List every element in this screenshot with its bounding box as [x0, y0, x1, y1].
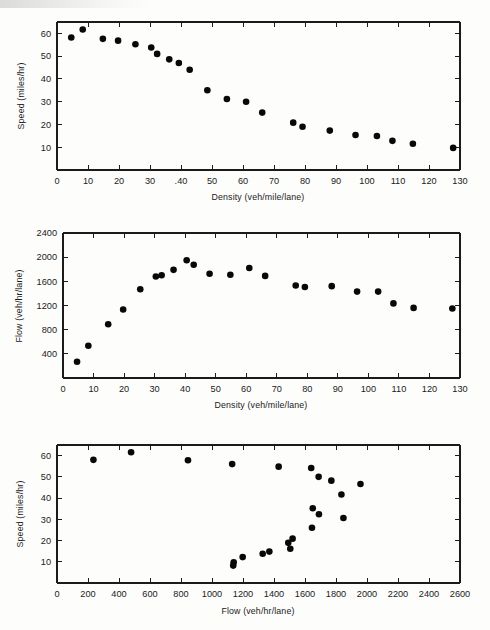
- y-tick-label: 50: [41, 472, 51, 482]
- y-axis-tick-labels-2: 4008001200160020002400: [37, 228, 57, 359]
- x-tick-label: 10: [88, 384, 98, 394]
- y-axis-ticks-1: [57, 33, 460, 147]
- scatter-point: [308, 465, 315, 472]
- y-axis-title-3: Speed (miles/hr): [15, 481, 25, 548]
- x-tick-label: 30: [145, 176, 155, 186]
- scatter-point: [259, 109, 266, 116]
- x-tick-label: 400: [111, 589, 126, 599]
- scatter-point: [285, 540, 292, 547]
- scatter-point: [309, 505, 316, 512]
- y-tick-label: 800: [42, 325, 57, 335]
- x-tick-label: 30: [149, 384, 159, 394]
- scatter-point: [128, 449, 135, 456]
- scatter-point: [410, 305, 417, 312]
- y-tick-label: 40: [41, 493, 51, 503]
- y-tick-label: 60: [41, 451, 51, 461]
- scatter-point: [204, 87, 211, 94]
- scatter-point: [287, 546, 294, 553]
- scatter-point: [120, 306, 127, 313]
- scatter-point: [115, 37, 122, 44]
- scatter-point: [227, 271, 234, 278]
- x-tick-label: 80: [302, 384, 312, 394]
- scatter-point: [229, 461, 236, 468]
- scatter-point: [262, 273, 269, 280]
- x-axis-tick-labels-2: 0102030405060708090100110120130: [60, 384, 467, 394]
- scatter-point: [79, 26, 86, 33]
- y-tick-label: 20: [41, 120, 51, 130]
- scatter-point: [85, 342, 92, 349]
- x-tick-label: 2600: [450, 589, 470, 599]
- x-tick-label: 50: [207, 176, 217, 186]
- x-axis-ticks-3: [88, 445, 460, 583]
- x-tick-label: 800: [173, 589, 188, 599]
- y-tick-label: 30: [41, 515, 51, 525]
- x-tick-label: 2200: [388, 589, 408, 599]
- scatter-point: [90, 457, 97, 464]
- x-tick-label: 0: [54, 176, 59, 186]
- y-tick-label: 30: [41, 97, 51, 107]
- plot-frame-3: [57, 445, 460, 583]
- scatter-point: [259, 550, 266, 557]
- speed-flow-chart: 102030405060 020040060080010001200140016…: [0, 420, 490, 630]
- x-tick-label: 1000: [202, 589, 222, 599]
- scatter-point: [166, 56, 173, 63]
- data-points-2: [74, 257, 456, 365]
- y-tick-label: 10: [41, 557, 51, 567]
- scatter-point: [170, 267, 177, 274]
- x-tick-label: 80: [300, 176, 310, 186]
- scatter-point: [316, 511, 323, 518]
- x-axis-title-1: Density (veh/mile/lane): [212, 192, 305, 202]
- scatter-point: [230, 562, 237, 569]
- x-tick-label: 1600: [295, 589, 315, 599]
- x-tick-label: 0: [54, 589, 59, 599]
- speed-density-chart: 102030405060 0102030.4050607080901001101…: [0, 0, 490, 210]
- scatter-point: [68, 34, 75, 41]
- x-tick-label: 70: [269, 176, 279, 186]
- x-axis-ticks-1: [88, 22, 460, 170]
- x-tick-label: 110: [391, 176, 406, 186]
- scatter-point: [206, 270, 213, 277]
- y-tick-label: 2400: [37, 228, 57, 238]
- scatter-point: [190, 261, 197, 268]
- scatter-point: [154, 51, 161, 58]
- scatter-point: [266, 548, 273, 555]
- y-axis-tick-labels-1: 102030405060: [41, 29, 51, 153]
- x-tick-label: 90: [333, 384, 343, 394]
- x-tick-label: 0: [60, 384, 65, 394]
- x-tick-label: 100: [359, 176, 374, 186]
- scatter-point: [374, 133, 381, 140]
- scatter-point: [292, 282, 299, 289]
- scatter-point: [309, 525, 316, 532]
- x-tick-label: 40: [180, 384, 190, 394]
- scatter-point: [328, 283, 335, 290]
- x-tick-label: 60: [238, 176, 248, 186]
- x-tick-label: 600: [142, 589, 157, 599]
- scatter-point: [246, 265, 253, 272]
- x-axis-tick-labels-1: 0102030.405060708090100110120130: [54, 176, 467, 186]
- x-tick-label: 20: [114, 176, 124, 186]
- x-tick-label: 100: [361, 384, 376, 394]
- x-tick-label: 1200: [233, 589, 253, 599]
- scatter-point: [105, 321, 112, 328]
- y-tick-label: 2000: [37, 252, 57, 262]
- x-tick-label: 130: [452, 176, 467, 186]
- x-tick-label: 130: [452, 384, 467, 394]
- scatter-point: [176, 60, 183, 67]
- scatter-point: [290, 119, 297, 126]
- scatter-point: [450, 145, 457, 152]
- y-tick-label: 20: [41, 536, 51, 546]
- scatter-point: [137, 286, 144, 293]
- panel-speed-flow: 102030405060 020040060080010001200140016…: [0, 420, 490, 630]
- scatter-point: [100, 36, 107, 43]
- x-tick-label: 70: [272, 384, 282, 394]
- plot-frame-2: [63, 233, 460, 378]
- x-axis-tick-labels-3: 0200400600800100012001400160018002000220…: [54, 589, 470, 599]
- scatter-point: [183, 257, 190, 264]
- scatter-point: [340, 515, 347, 522]
- x-tick-label: 20: [119, 384, 129, 394]
- x-tick-label: 110: [392, 384, 407, 394]
- scatter-point: [74, 359, 81, 366]
- scatter-point: [299, 123, 306, 130]
- scatter-point: [158, 272, 165, 279]
- x-axis-title-3: Flow (veh/hr/lane): [221, 606, 294, 616]
